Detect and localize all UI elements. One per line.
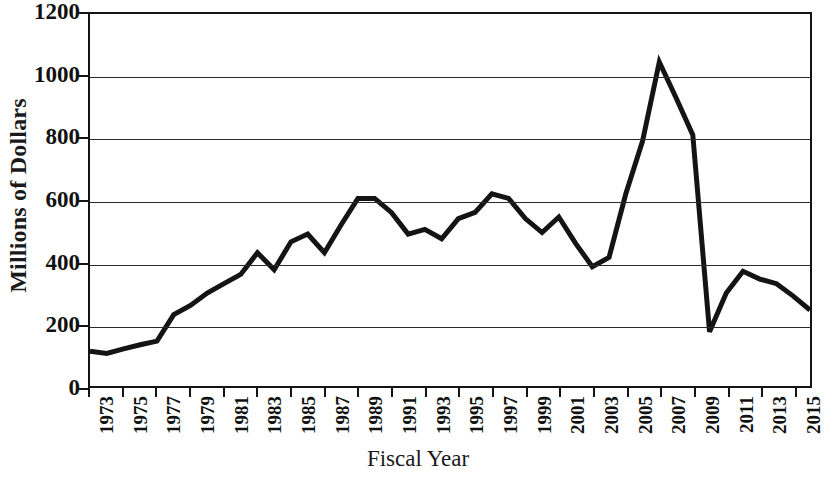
x-axis-title: Fiscal Year xyxy=(0,446,836,472)
x-tick-mark xyxy=(728,388,730,397)
x-tick-mark xyxy=(189,388,191,397)
x-tick-mark xyxy=(290,388,292,397)
x-tick-mark xyxy=(223,388,225,397)
x-tick-mark xyxy=(660,388,662,397)
x-tick-mark xyxy=(122,388,124,397)
data-series-line xyxy=(90,62,810,353)
gridline xyxy=(90,77,810,78)
x-tick-mark xyxy=(694,388,696,397)
gridline xyxy=(90,265,810,266)
plot-area xyxy=(88,12,812,388)
x-tick-mark xyxy=(795,388,797,397)
gridline xyxy=(90,139,810,140)
x-tick-mark xyxy=(155,388,157,397)
x-tick-mark xyxy=(391,388,393,397)
x-tick-mark xyxy=(559,388,561,397)
x-tick-mark xyxy=(324,388,326,397)
x-tick-mark xyxy=(593,388,595,397)
y-tick-mark xyxy=(78,200,88,202)
x-tick-mark xyxy=(88,388,90,397)
y-tick-label: 200 xyxy=(22,313,80,336)
y-tick-label: 1000 xyxy=(22,63,80,86)
y-tick-mark xyxy=(78,388,88,390)
x-tick-mark xyxy=(761,388,763,397)
y-tick-mark xyxy=(78,137,88,139)
line-chart-figure: Millions of Dollars 02004006008001000120… xyxy=(0,0,836,478)
y-tick-mark xyxy=(78,75,88,77)
x-tick-mark xyxy=(492,388,494,397)
x-tick-mark xyxy=(425,388,427,397)
y-tick-mark xyxy=(78,263,88,265)
y-tick-label: 800 xyxy=(22,125,80,148)
gridline xyxy=(90,327,810,328)
y-tick-label: 600 xyxy=(22,188,80,211)
gridline xyxy=(90,202,810,203)
y-tick-label: 400 xyxy=(22,251,80,274)
data-line-svg xyxy=(90,14,810,386)
x-tick-mark xyxy=(256,388,258,397)
x-tick-mark xyxy=(458,388,460,397)
y-tick-label: 1200 xyxy=(22,0,80,23)
y-tick-mark xyxy=(78,12,88,14)
x-tick-mark xyxy=(357,388,359,397)
y-tick-mark xyxy=(78,325,88,327)
x-tick-mark xyxy=(627,388,629,397)
x-tick-mark xyxy=(526,388,528,397)
